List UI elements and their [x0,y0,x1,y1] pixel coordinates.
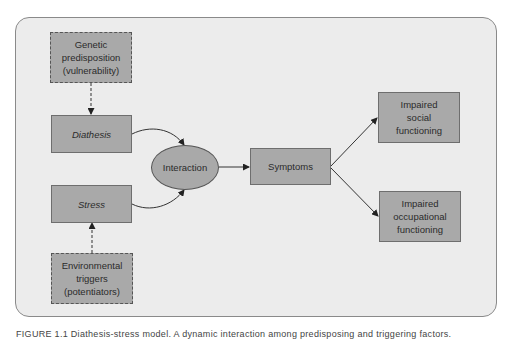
diathesis-node: Diathesis [51,115,132,153]
symptoms-node: Symptoms [250,148,331,185]
impaired-social-node: Impaired social functioning [378,92,460,143]
figure-caption: FIGURE 1.1 Diathesis-stress model. A dyn… [16,329,451,339]
stress-node: Stress [51,185,132,223]
impaired-occupational-node: Impaired occupational functioning [379,191,461,242]
interaction-node: Interaction [151,145,219,190]
genetic-predisposition-node: Genetic predisposition (vulnerability) [50,32,132,83]
environmental-triggers-node: Environmental triggers (potentiators) [51,253,133,304]
